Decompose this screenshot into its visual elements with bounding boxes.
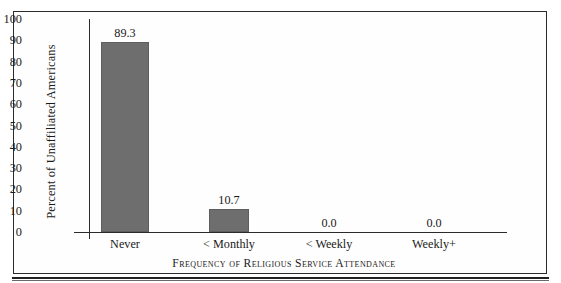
bottom-rule [12,277,549,281]
plot-area: 100 90 80 70 60 50 40 30 20 10 0 89.3 Ne… [14,12,548,275]
category-label-less-than-weekly: < Weekly [289,238,369,251]
bar-group-weekly-plus[interactable]: 0.0 Weekly+ [414,12,454,275]
bar-value-less-than-weekly: 0.0 [299,217,359,229]
bar-value-never: 89.3 [95,27,155,39]
bar-series: 89.3 Never 10.7 < Monthly 0.0 < Weekly 0… [14,12,548,275]
bar-never[interactable] [101,42,149,232]
category-label-weekly-plus: Weekly+ [394,238,474,251]
x-axis-title: Frequency of Religious Service Attendanc… [54,257,514,270]
bottom-rule-thin-line [12,280,549,281]
bar-less-than-monthly[interactable] [209,209,249,232]
bar-value-less-than-monthly: 10.7 [199,194,259,206]
category-label-less-than-monthly: < Monthly [189,238,269,251]
bar-group-never[interactable]: 89.3 Never [101,12,149,275]
bar-value-weekly-plus: 0.0 [404,217,464,229]
category-label-never: Never [85,238,165,251]
bar-group-less-than-weekly[interactable]: 0.0 < Weekly [309,12,349,275]
bottom-rule-thick-line [12,277,549,279]
bar-group-less-than-monthly[interactable]: 10.7 < Monthly [209,12,249,275]
figure-frame: Percent of Unaffiliated Americans 100 90… [13,11,547,274]
